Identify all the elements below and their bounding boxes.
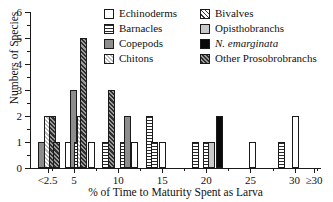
- chart-legend: EchinodermsBivalvesBarnaclesOpisthobranc…: [104, 6, 330, 68]
- x-tick-label-<2.5: <2.5: [38, 174, 58, 186]
- bar: [249, 142, 256, 168]
- y-tick-label-1: 1: [2, 136, 22, 148]
- bar: [278, 142, 285, 168]
- bar: [53, 142, 60, 168]
- y-tick-0: [25, 168, 30, 169]
- x-tick-minor: [96, 169, 97, 171]
- legend-item: Other Prosobrobranchs: [200, 53, 330, 64]
- x-tick-label-≥30: ≥30: [305, 174, 322, 186]
- bar: [151, 142, 158, 168]
- legend-label: N. emarginata: [215, 38, 278, 49]
- bar: [216, 116, 223, 168]
- bar: [208, 142, 215, 168]
- legend-label: Opisthobranchs: [215, 23, 284, 34]
- bar: [192, 142, 199, 168]
- x-tick-minor: [228, 169, 229, 171]
- legend-label: Chitons: [119, 53, 153, 64]
- bar: [124, 116, 131, 168]
- legend-label: Echinoderms: [119, 8, 177, 19]
- bar: [131, 142, 138, 168]
- legend-label: Copepods: [119, 38, 163, 49]
- x-tick-minor: [162, 169, 163, 171]
- x-tick-<2.5: [48, 169, 49, 173]
- y-tick-label-0: 0: [2, 162, 22, 174]
- legend-swatch-icon: [200, 24, 210, 34]
- x-tick-label-30: 30: [289, 174, 300, 186]
- legend-item: Bivalves: [200, 8, 330, 19]
- x-tick-label-15: 15: [157, 174, 168, 186]
- legend-label: Bivalves: [215, 8, 254, 19]
- legend-item: Opisthobranchs: [200, 23, 330, 34]
- x-tick-minor: [52, 169, 53, 171]
- legend-label: Other Prosobrobranchs: [215, 53, 317, 64]
- x-tick-minor: [295, 169, 296, 171]
- x-tick-minor: [206, 169, 207, 171]
- x-tick-minor: [273, 169, 274, 171]
- legend-swatch-icon: [200, 54, 210, 64]
- x-tick-minor: [250, 169, 251, 171]
- legend-swatch-icon: [104, 39, 114, 49]
- x-tick-minor: [140, 169, 141, 171]
- legend-swatch-icon: [104, 54, 114, 64]
- bar: [159, 142, 166, 168]
- bar: [88, 142, 95, 168]
- legend-swatch-icon: [200, 39, 210, 49]
- legend-swatch-icon: [200, 9, 210, 19]
- x-tick-label-5: 5: [71, 174, 77, 186]
- x-tick-minor: [184, 169, 185, 171]
- x-tick-minor: [118, 169, 119, 171]
- legend-item: Echinoderms: [104, 8, 200, 19]
- legend-item: Copepods: [104, 38, 200, 49]
- legend-swatch-icon: [104, 24, 114, 34]
- x-axis-title: % of Time to Maturity Spent as Larva: [30, 186, 321, 198]
- x-tick-label-25: 25: [245, 174, 256, 186]
- bar: [108, 90, 115, 168]
- x-tick-label-20: 20: [201, 174, 212, 186]
- legend-swatch-icon: [104, 9, 114, 19]
- legend-item: Chitons: [104, 53, 200, 64]
- figure-histogram: 0123456 <2.551015202530≥30 Numbers of Sp…: [0, 0, 333, 202]
- legend-label: Barnacles: [119, 23, 162, 34]
- x-tick-minor: [317, 169, 318, 171]
- legend-item: N. emarginata: [200, 38, 330, 49]
- x-tick-label-10: 10: [113, 174, 124, 186]
- bar: [292, 116, 299, 168]
- legend-item: Barnacles: [104, 23, 200, 34]
- bar: [80, 38, 87, 168]
- y-axis-title: Numbers of Species: [8, 0, 20, 128]
- x-tick-≥30: [314, 169, 315, 173]
- x-tick-minor: [74, 169, 75, 171]
